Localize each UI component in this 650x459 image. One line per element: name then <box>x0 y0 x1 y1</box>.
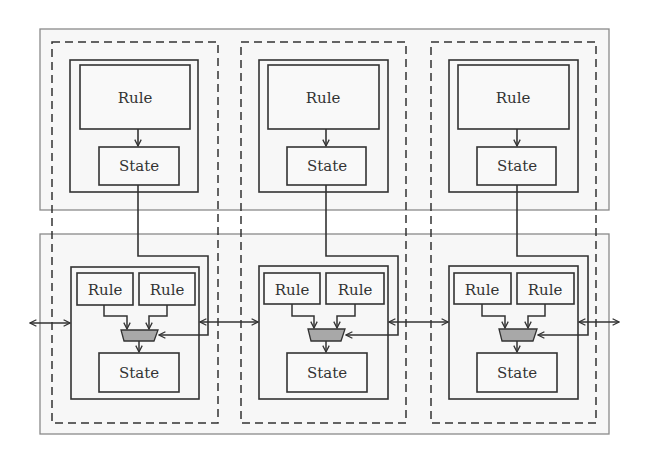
bottom-rule-label-3b: Rule <box>528 281 563 299</box>
multiplexer-2 <box>308 329 345 341</box>
multiplexer-3 <box>499 329 537 341</box>
bottom-rule-label-1b: Rule <box>150 281 185 299</box>
bottom-module-3: Rule Rule State <box>449 266 578 399</box>
top-state-label-2: State <box>307 157 347 175</box>
top-module-2: Rule State <box>259 60 388 192</box>
bottom-module-1: Rule Rule State <box>71 267 199 399</box>
top-rule-label-3: Rule <box>496 89 531 107</box>
top-module-3: Rule State <box>449 60 578 192</box>
top-module-1: Rule State <box>70 60 198 192</box>
bottom-module-2: Rule Rule State <box>259 266 388 399</box>
bottom-state-label-2: State <box>307 364 347 382</box>
bottom-state-label-1: State <box>119 364 159 382</box>
top-rule-label-2: Rule <box>306 89 341 107</box>
bottom-rule-label-2b: Rule <box>338 281 373 299</box>
bottom-rule-label-3a: Rule <box>465 281 500 299</box>
top-rule-label-1: Rule <box>118 89 153 107</box>
multiplexer-1 <box>121 330 158 341</box>
top-state-label-1: State <box>119 157 159 175</box>
bottom-rule-label-2a: Rule <box>275 281 310 299</box>
bottom-state-label-3: State <box>497 364 537 382</box>
cellular-automaton-diagram: Rule State Rule State Rule State Rule Ru… <box>0 0 650 459</box>
bottom-rule-label-1a: Rule <box>88 281 123 299</box>
top-state-label-3: State <box>497 157 537 175</box>
